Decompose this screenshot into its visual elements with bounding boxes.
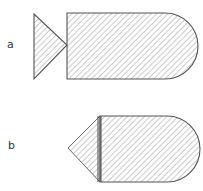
figure-b-cone <box>68 116 100 182</box>
figure-b-body <box>100 116 200 182</box>
figure-a <box>34 13 198 79</box>
figure-a-body <box>67 13 198 79</box>
figure-b <box>68 116 200 182</box>
diagram-canvas <box>0 0 203 191</box>
figure-a-triangle <box>34 14 67 79</box>
